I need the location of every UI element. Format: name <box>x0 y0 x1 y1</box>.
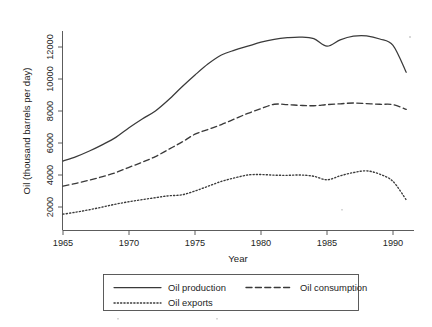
y-tick-label: 8000 <box>45 101 55 121</box>
legend-label: Oil production <box>168 282 226 293</box>
x-tick-label: 1965 <box>53 238 73 248</box>
x-axis-title: Year <box>228 253 248 264</box>
y-tick-label: 6000 <box>45 133 55 153</box>
scan-speck <box>341 209 343 211</box>
y-axis-title: Oil (thousand barrels per day) <box>21 68 32 195</box>
y-axis-ticks: 20004000600080001000012000 <box>45 34 62 217</box>
x-tick-label: 1975 <box>185 238 205 248</box>
line-chart-canvas: 20004000600080001000012000 1965197019751… <box>0 0 432 327</box>
x-tick-label: 1985 <box>317 238 337 248</box>
y-tick-label: 12000 <box>45 34 55 60</box>
y-tick-label: 2000 <box>45 197 55 217</box>
x-tick-label: 1970 <box>119 238 139 248</box>
legend-label: Oil consumption <box>300 282 367 293</box>
x-tick-label: 1990 <box>383 238 403 248</box>
chart-legend: Oil productionOil consumptionOil exports <box>104 275 368 311</box>
chart-figure: 20004000600080001000012000 1965197019751… <box>0 0 432 327</box>
x-axis-ticks: 196519701975198019851990 <box>53 231 403 249</box>
scan-speck <box>409 36 411 38</box>
axes-group <box>63 31 415 231</box>
y-tick-label: 4000 <box>45 165 55 185</box>
series-line-oil-production <box>63 36 406 162</box>
series-line-oil-consumption <box>63 103 406 186</box>
series-line-oil-exports <box>63 171 406 214</box>
scan-speck <box>216 318 218 320</box>
legend-label: Oil exports <box>168 297 213 308</box>
y-tick-label: 10000 <box>45 66 55 92</box>
x-tick-label: 1980 <box>251 238 271 248</box>
scan-speck <box>117 318 119 320</box>
data-series-group <box>63 36 406 215</box>
